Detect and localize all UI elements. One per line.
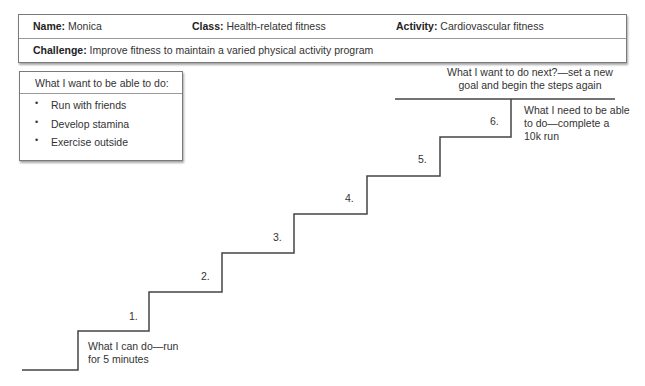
step-number-4: 4.	[345, 192, 354, 204]
end-goal-label: What I need to be able to do—complete a …	[524, 104, 630, 143]
step-number-3: 3.	[273, 231, 282, 243]
staircase-line	[22, 99, 511, 370]
step-number-5: 5.	[418, 153, 427, 165]
step-number-6: 6.	[490, 115, 499, 127]
end-goal-label-line: to do—complete a	[524, 117, 630, 130]
end-goal-label-line: 10k run	[524, 130, 630, 143]
start-label-line: for 5 minutes	[88, 353, 178, 366]
start-label-line: What I can do—run	[88, 340, 178, 353]
step-number-1: 1.	[129, 310, 138, 322]
next-goal-label-line: goal and begin the steps again	[440, 79, 620, 92]
step-number-2: 2.	[201, 270, 210, 282]
end-goal-label-line: What I need to be able	[524, 104, 630, 117]
next-goal-label: What I want to do next?—set a new goal a…	[440, 66, 620, 92]
staircase-diagram	[0, 0, 645, 386]
start-label: What I can do—run for 5 minutes	[88, 340, 178, 366]
next-goal-label-line: What I want to do next?—set a new	[440, 66, 620, 79]
